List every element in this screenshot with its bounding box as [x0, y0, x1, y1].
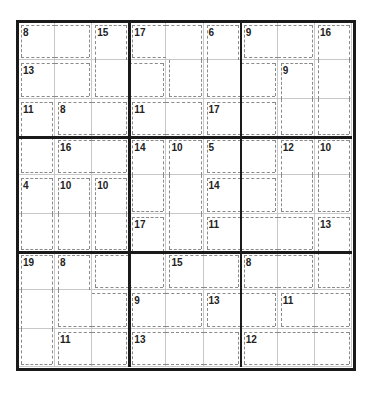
cell-r5c9[interactable]: [315, 175, 352, 213]
cell-r4c7[interactable]: [241, 137, 278, 175]
cell-r4c1[interactable]: [18, 137, 55, 175]
cell-r2c2[interactable]: [55, 60, 92, 98]
cell-r3c7[interactable]: [241, 99, 278, 137]
cell-r9c9[interactable]: [315, 329, 352, 367]
cell-r1c4[interactable]: [129, 22, 166, 60]
cell-r9c3[interactable]: [92, 329, 129, 367]
cell-r9c6[interactable]: [204, 329, 241, 367]
cell-r4c9[interactable]: [315, 137, 352, 175]
cell-r2c4[interactable]: [129, 60, 166, 98]
cell-r6c9[interactable]: [315, 214, 352, 252]
cell-r3c2[interactable]: [55, 99, 92, 137]
cell-r6c1[interactable]: [18, 214, 55, 252]
cell-r8c2[interactable]: [55, 290, 92, 328]
killer-sudoku-grid: 8151769161391181117161410512104101014171…: [18, 22, 352, 367]
cell-r1c8[interactable]: [278, 22, 315, 60]
cell-r7c6[interactable]: [204, 252, 241, 290]
cell-r1c2[interactable]: [55, 22, 92, 60]
cell-r2c3[interactable]: [92, 60, 129, 98]
cell-r8c4[interactable]: [129, 290, 166, 328]
cell-r1c9[interactable]: [315, 22, 352, 60]
cell-r9c7[interactable]: [241, 329, 278, 367]
cell-r2c6[interactable]: [204, 60, 241, 98]
cell-r9c4[interactable]: [129, 329, 166, 367]
cell-r6c6[interactable]: [204, 214, 241, 252]
cell-r5c7[interactable]: [241, 175, 278, 213]
cell-r7c1[interactable]: [18, 252, 55, 290]
cell-r6c5[interactable]: [166, 214, 203, 252]
cell-r3c9[interactable]: [315, 99, 352, 137]
cell-r9c8[interactable]: [278, 329, 315, 367]
cell-r4c5[interactable]: [166, 137, 203, 175]
cell-r6c8[interactable]: [278, 214, 315, 252]
cell-r5c2[interactable]: [55, 175, 92, 213]
cell-r8c5[interactable]: [166, 290, 203, 328]
cell-r1c6[interactable]: [204, 22, 241, 60]
cell-r8c8[interactable]: [278, 290, 315, 328]
cell-r8c1[interactable]: [18, 290, 55, 328]
cell-r8c3[interactable]: [92, 290, 129, 328]
cell-r2c8[interactable]: [278, 60, 315, 98]
cell-r5c1[interactable]: [18, 175, 55, 213]
cell-r2c1[interactable]: [18, 60, 55, 98]
cell-r7c4[interactable]: [129, 252, 166, 290]
cell-r7c8[interactable]: [278, 252, 315, 290]
cell-r2c9[interactable]: [315, 60, 352, 98]
cell-r1c3[interactable]: [92, 22, 129, 60]
cell-r7c9[interactable]: [315, 252, 352, 290]
cell-r8c6[interactable]: [204, 290, 241, 328]
cell-r7c5[interactable]: [166, 252, 203, 290]
cell-r7c2[interactable]: [55, 252, 92, 290]
cell-r8c7[interactable]: [241, 290, 278, 328]
cell-r1c5[interactable]: [166, 22, 203, 60]
cell-r5c5[interactable]: [166, 175, 203, 213]
cell-r6c7[interactable]: [241, 214, 278, 252]
cell-r5c4[interactable]: [129, 175, 166, 213]
cell-r2c7[interactable]: [241, 60, 278, 98]
cell-r3c4[interactable]: [129, 99, 166, 137]
cell-r2c5[interactable]: [166, 60, 203, 98]
cell-r9c1[interactable]: [18, 329, 55, 367]
cell-r4c2[interactable]: [55, 137, 92, 175]
cell-r9c5[interactable]: [166, 329, 203, 367]
cell-r7c3[interactable]: [92, 252, 129, 290]
cell-r6c4[interactable]: [129, 214, 166, 252]
cell-r3c1[interactable]: [18, 99, 55, 137]
cell-r4c3[interactable]: [92, 137, 129, 175]
cell-r3c5[interactable]: [166, 99, 203, 137]
cell-r4c4[interactable]: [129, 137, 166, 175]
cell-r3c8[interactable]: [278, 99, 315, 137]
cell-r6c3[interactable]: [92, 214, 129, 252]
cell-r5c3[interactable]: [92, 175, 129, 213]
cell-r4c8[interactable]: [278, 137, 315, 175]
cell-r4c6[interactable]: [204, 137, 241, 175]
cell-r5c6[interactable]: [204, 175, 241, 213]
cell-r3c3[interactable]: [92, 99, 129, 137]
cell-r6c2[interactable]: [55, 214, 92, 252]
cell-r7c7[interactable]: [241, 252, 278, 290]
cell-r1c1[interactable]: [18, 22, 55, 60]
cell-r3c6[interactable]: [204, 99, 241, 137]
cell-r9c2[interactable]: [55, 329, 92, 367]
cell-r5c8[interactable]: [278, 175, 315, 213]
cell-r1c7[interactable]: [241, 22, 278, 60]
cell-r8c9[interactable]: [315, 290, 352, 328]
